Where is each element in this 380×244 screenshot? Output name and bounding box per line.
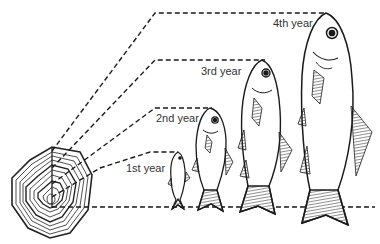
label-1st-year: 1st year <box>126 163 165 174</box>
fish-4th-year-icon <box>298 13 372 225</box>
fish-scale-icon <box>12 147 92 238</box>
label-2nd-year: 2nd year <box>156 113 199 124</box>
fish-3rd-year-icon <box>238 60 292 214</box>
fish-growth-diagram: 1st year 2nd year 3rd year 4th year <box>0 0 380 244</box>
fish-1st-year-icon <box>168 152 190 209</box>
label-4th-year: 4th year <box>273 18 313 29</box>
label-3rd-year: 3rd year <box>201 66 241 77</box>
leader-line-4th-year <box>52 13 325 151</box>
